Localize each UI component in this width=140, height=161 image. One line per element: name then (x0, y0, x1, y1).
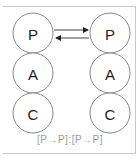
right-node-a: A (90, 53, 130, 93)
left-node-p: P (13, 13, 53, 53)
svg-text:C: C (105, 106, 116, 123)
svg-text:A: A (105, 66, 115, 83)
left-node-c: C (13, 93, 53, 133)
right-node-p: P (90, 13, 130, 53)
right-node-c: C (90, 93, 130, 133)
svg-text:P: P (105, 26, 115, 43)
diagram-caption: [P→P]:[P→P] (0, 134, 140, 145)
svg-text:A: A (28, 66, 38, 83)
left-node-a: A (13, 53, 53, 93)
svg-text:P: P (28, 26, 38, 43)
svg-text:C: C (28, 106, 39, 123)
